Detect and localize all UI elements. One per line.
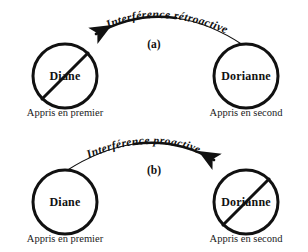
node-circle-left-b	[33, 170, 97, 234]
caption-left-b: Appris en premier	[0, 234, 133, 245]
arc-label-a: Interférence rétroactive	[103, 8, 230, 36]
caption-left-a: Appris en premier	[0, 108, 133, 119]
caption-right-b: Appris en second	[178, 234, 308, 245]
panel-tag-b: (b)	[129, 164, 179, 176]
panel-proactive-interference: Interférence proactive Diane Dorianne (b…	[0, 126, 308, 252]
interference-diagram: Interférence rétroactive Diane Dorianne …	[0, 0, 308, 252]
arc-label-b: Interférence proactive	[84, 134, 203, 162]
caption-right-a: Appris en second	[178, 108, 308, 119]
panel-tag-a: (a)	[129, 38, 179, 50]
panel-retroactive-interference: Interférence rétroactive Diane Dorianne …	[0, 0, 308, 126]
node-circle-right-a	[214, 44, 278, 108]
